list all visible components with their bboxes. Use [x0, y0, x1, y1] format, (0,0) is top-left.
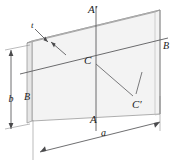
dimension-b-arrow-top — [9, 50, 14, 56]
plate-thickness-face — [27, 41, 32, 123]
dimension-b-ext-bottom — [5, 124, 30, 129]
label-width: a — [101, 127, 106, 138]
plate-diagram-svg: A′ A B B C C′ t b a — [0, 0, 173, 168]
label-thickness: t — [31, 20, 34, 30]
label-centroid-prime: C′ — [132, 98, 142, 110]
label-axis-left: B — [24, 91, 30, 102]
label-axis-bottom: A — [89, 113, 97, 125]
dimension-a-line — [40, 122, 160, 152]
figure-container: A′ A B B C C′ t b a — [0, 0, 173, 168]
dimension-a-arrow-right — [154, 122, 160, 128]
dimension-a-arrow-left — [40, 146, 46, 152]
label-height: b — [9, 93, 14, 104]
label-axis-right: B — [163, 40, 169, 51]
label-axis-top: A′ — [87, 3, 98, 15]
dimension-b-ext-top — [5, 45, 30, 50]
label-centroid: C — [84, 54, 92, 66]
